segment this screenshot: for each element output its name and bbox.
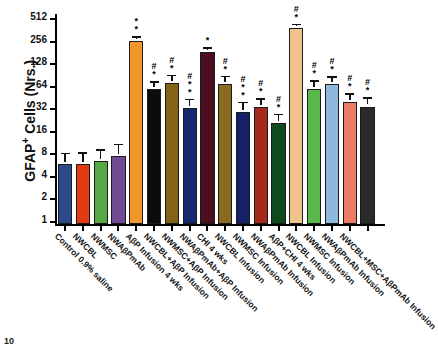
- x-axis-tick: [82, 226, 84, 231]
- y-axis-tick-label: 1: [41, 214, 47, 225]
- x-axis-tick: [331, 226, 333, 231]
- x-axis-tick: [100, 226, 102, 231]
- significance-marker: # *: [359, 78, 377, 94]
- y-axis-tick: 2: [50, 198, 55, 200]
- x-axis-tick-label: NWCBL Infusion: [284, 231, 338, 285]
- error-bar-cap: [167, 75, 176, 77]
- y-axis-tick-label: 2: [41, 191, 47, 202]
- plot-area: 1248163264128256512 * *# *# *# * **# *# …: [55, 14, 385, 226]
- error-bar-cap: [61, 153, 70, 155]
- y-axis-tick: 64: [50, 86, 55, 88]
- x-axis-tick-label-text: NWCBL+MSC+AβPmAb Infusion: [338, 231, 438, 331]
- x-axis-tick: [278, 226, 280, 231]
- y-axis-tick-label: 128: [30, 56, 47, 67]
- significance-marker: # *: [252, 79, 270, 95]
- y-axis-tick: 1: [50, 221, 55, 223]
- error-bar-cap: [256, 98, 265, 100]
- error-bar-cap: [221, 76, 230, 78]
- y-axis-tick: 4: [50, 176, 55, 178]
- x-axis-tick: [367, 226, 369, 231]
- x-axis-tick-label-text: NWAβPmAb Infusion: [320, 231, 387, 298]
- x-axis-tick-label: AβP Infusion 4 wks: [124, 231, 186, 293]
- y-axis-tick-label: 16: [36, 124, 47, 135]
- x-axis-tick-label: NWMSC+AβP Infusion: [160, 231, 231, 302]
- y-axis-tick-label: 512: [30, 11, 47, 22]
- y-axis-tick: 512: [50, 18, 55, 20]
- x-axis-tick-label-text: NWAβPmAb Infusion: [249, 231, 316, 298]
- x-axis-tick-label-text: NWCBL: [71, 231, 100, 260]
- x-axis-tick: [295, 226, 297, 231]
- significance-marker: *: [198, 36, 216, 44]
- x-axis-tick-label: NWCBL+AβP Infusion: [142, 231, 212, 301]
- x-axis-tick-label: NWAβPmAb Infusion: [249, 231, 316, 298]
- x-axis-tick-label: CHI 4 wks: [195, 231, 230, 266]
- y-axis-tick: 128: [50, 63, 55, 65]
- error-bar-cap: [327, 76, 336, 78]
- error-bar-cap: [274, 114, 283, 116]
- error-bar-cap: [238, 102, 247, 104]
- x-axis-tick: [349, 226, 351, 231]
- significance-marker: # *: [341, 74, 359, 90]
- bar: [183, 108, 197, 224]
- y-axis-tick: 256: [50, 41, 55, 43]
- x-axis-tick-label: AβP+CHI 4 wks: [267, 231, 318, 282]
- bar: [360, 107, 374, 225]
- bar: [307, 89, 321, 224]
- x-axis-tick-label-text: NWMSC Infusion: [302, 231, 357, 286]
- x-axis-tick-label: NWCBL: [71, 231, 100, 260]
- bar: [289, 28, 303, 224]
- y-axis-tick-label: 256: [30, 34, 47, 45]
- x-axis-tick-label: Control 0.9% saline: [53, 231, 116, 294]
- error-bar-cap: [78, 152, 87, 154]
- bar: [236, 112, 250, 224]
- x-axis-tick-label-text: Control 0.9% saline: [53, 231, 116, 294]
- y-axis-tick: 8: [50, 153, 55, 155]
- x-axis-tick: [171, 226, 173, 231]
- bar: [94, 161, 108, 224]
- x-axis-tick-label-text: CHI 4 wks: [195, 231, 230, 266]
- x-axis-tick: [260, 226, 262, 231]
- bar: [218, 84, 232, 224]
- x-axis-tick: [313, 226, 315, 231]
- error-bar-cap: [310, 80, 319, 82]
- x-axis-tick-label-text: NWCBL Infusion: [213, 231, 267, 285]
- x-axis-tick: [189, 226, 191, 231]
- x-axis-tick-label: NWMSC Infusion: [231, 231, 286, 286]
- error-bar-cap: [363, 97, 372, 99]
- bar: [165, 83, 179, 224]
- bar: [254, 107, 268, 224]
- x-axis-tick-label-text: NWCBL+AβP Infusion: [142, 231, 212, 301]
- x-axis-tick-label-text: NWAβPmAb: [106, 231, 148, 273]
- significance-marker: # *: [163, 56, 181, 72]
- y-axis-line: [55, 14, 57, 226]
- bar: [76, 164, 90, 224]
- bar: [200, 52, 214, 224]
- x-axis-tick-label-text: NWAβPmAb+AβP Infusion: [178, 231, 261, 314]
- x-axis-tick-label-text: AβP Infusion 4 wks: [124, 231, 186, 293]
- significance-marker: # *: [270, 95, 288, 111]
- y-axis-title-superscript: +: [20, 138, 31, 144]
- x-axis-tick: [206, 226, 208, 231]
- x-axis-tick: [117, 226, 119, 231]
- x-axis-tick-label-text: NWMSC: [89, 231, 119, 261]
- error-bar-cap: [114, 144, 123, 146]
- y-axis-tick-label: 8: [41, 146, 47, 157]
- x-axis-tick-label-text: NWMSC+AβP Infusion: [160, 231, 231, 302]
- significance-marker: # *: [305, 61, 323, 77]
- bar: [343, 102, 357, 224]
- y-axis-title: GFAP+ Cells (Nrs.): [20, 16, 38, 226]
- error-bar-cap: [150, 81, 159, 83]
- significance-marker: * *: [127, 17, 145, 33]
- x-axis-tick: [224, 226, 226, 231]
- error-bar-cap: [203, 47, 212, 49]
- x-axis-tick-label-text: AβP+CHI 4 wks: [267, 231, 318, 282]
- error-bar: [118, 144, 120, 154]
- bar: [147, 89, 161, 224]
- y-axis-tick-label: 32: [36, 101, 47, 112]
- x-axis-tick-label-text: NWCBL Infusion: [284, 231, 338, 285]
- x-axis-tick-label-text: NWMSC Infusion: [231, 231, 286, 286]
- bar: [129, 41, 143, 224]
- y-axis-tick-label: 4: [41, 169, 47, 180]
- x-axis-tick: [64, 226, 66, 231]
